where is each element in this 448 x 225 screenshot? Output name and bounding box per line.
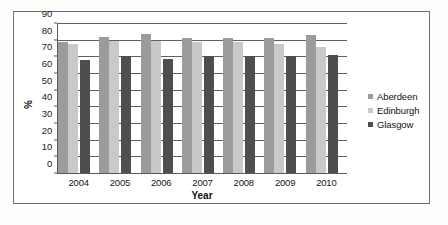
legend-label: Aberdeen [377,91,417,102]
bar-edinburgh-2006 [151,41,161,173]
bar-aberdeen-2008 [223,38,233,173]
bar-group [223,24,264,173]
bar-group [99,24,140,173]
y-tick-label: 80 [42,24,52,35]
bar-aberdeen-2010 [306,35,316,173]
bar-glasgow-2008 [245,56,255,173]
chart-figure: % 0102030405060708090 200420052006200720… [0,0,448,225]
legend-item-aberdeen: Aberdeen [368,91,419,102]
y-tick-label: 30 [42,108,52,119]
legend-swatch-icon [368,108,373,113]
bar-glasgow-2010 [328,55,338,173]
y-tick-mark [54,139,57,140]
x-tick-label: 2010 [306,177,347,188]
bar-aberdeen-2007 [182,38,192,173]
bar-group [264,24,305,173]
bar-groups [58,24,347,173]
y-tick-mark [54,39,57,40]
y-tick-mark [54,73,57,74]
x-tick-label: 2005 [99,177,140,188]
legend-label: Glasgow [377,119,413,130]
bar-glasgow-2007 [204,56,214,173]
y-tick-mark [54,106,57,107]
bar-aberdeen-2009 [264,38,274,173]
bar-aberdeen-2005 [99,37,109,173]
legend-swatch-icon [368,122,373,127]
bar-glasgow-2004 [80,60,90,173]
bar-glasgow-2005 [121,56,131,173]
y-tick-mark [54,56,57,57]
x-tick-label: 2006 [141,177,182,188]
chart-legend: AberdeenEdinburghGlasgow [368,91,419,130]
x-tick-label: 2008 [223,177,264,188]
y-axis-title: % [23,100,34,109]
legend-swatch-icon [368,94,373,99]
legend-item-edinburgh: Edinburgh [368,105,419,116]
bar-aberdeen-2004 [58,42,68,173]
x-axis-tick-labels: 2004200520062007200820092010 [58,177,347,188]
legend-item-glasgow: Glasgow [368,119,419,130]
bar-glasgow-2009 [286,56,296,173]
plot-area: 0102030405060708090 20042005200620072008… [57,24,347,174]
bar-edinburgh-2010 [316,47,326,173]
bar-edinburgh-2005 [109,41,119,173]
x-axis-title: Year [57,190,347,201]
bar-aberdeen-2006 [141,34,151,173]
y-tick-label: 90 [42,8,52,19]
bar-edinburgh-2009 [274,44,284,173]
y-tick-mark [54,156,57,157]
x-tick-label: 2009 [264,177,305,188]
legend-label: Edinburgh [377,105,419,116]
y-tick-label: 20 [42,124,52,135]
bar-glasgow-2006 [163,59,173,173]
x-tick-label: 2004 [58,177,99,188]
bar-edinburgh-2008 [233,42,243,173]
y-tick-label: 0 [47,158,52,169]
y-tick-mark [54,89,57,90]
bar-group [306,24,347,173]
y-tick-mark [54,123,57,124]
y-tick-label: 10 [42,141,52,152]
bar-edinburgh-2007 [192,42,202,173]
y-tick-label: 40 [42,91,52,102]
bar-group [141,24,182,173]
y-tick-mark [54,23,57,24]
y-tick-label: 50 [42,74,52,85]
bar-group [58,24,99,173]
bar-group [182,24,223,173]
y-tick-label: 70 [42,41,52,52]
y-tick-mark [54,173,57,174]
bar-edinburgh-2004 [68,44,78,173]
x-tick-label: 2007 [182,177,223,188]
y-tick-label: 60 [42,58,52,69]
